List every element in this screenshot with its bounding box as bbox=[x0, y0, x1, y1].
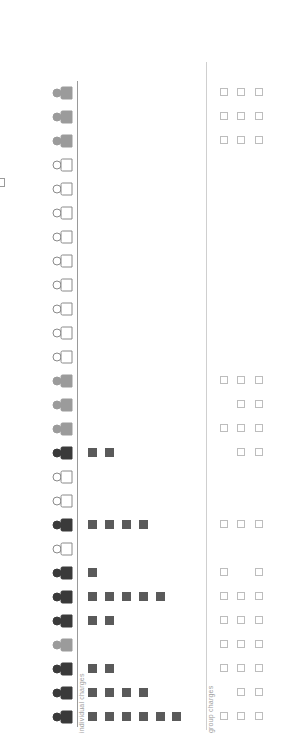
group-charge-square bbox=[255, 400, 263, 408]
person-row bbox=[0, 681, 284, 705]
person-row bbox=[0, 489, 284, 513]
person-dark-icon bbox=[52, 710, 74, 724]
person-row bbox=[0, 513, 284, 537]
person-dark-icon bbox=[52, 686, 74, 700]
individual-charge-square bbox=[139, 712, 148, 721]
group-charge-square bbox=[237, 376, 245, 384]
individual-charge-square bbox=[105, 448, 114, 457]
person-row bbox=[0, 225, 284, 249]
person-row bbox=[0, 633, 284, 657]
group-charge-square bbox=[237, 592, 245, 600]
group-charge-square bbox=[237, 424, 245, 432]
individual-charge-square bbox=[105, 664, 114, 673]
person-row bbox=[0, 561, 284, 585]
individual-charge-square bbox=[105, 688, 114, 697]
person-dark-icon bbox=[52, 446, 74, 460]
person-row bbox=[0, 441, 284, 465]
individual-charge-square bbox=[105, 616, 114, 625]
group-charge-square bbox=[255, 712, 263, 720]
group-charge-square bbox=[255, 448, 263, 456]
group-charge-square bbox=[220, 376, 228, 384]
person-row bbox=[0, 153, 284, 177]
person-row bbox=[0, 609, 284, 633]
person-row bbox=[0, 369, 284, 393]
person-row bbox=[0, 345, 284, 369]
individual-charge-square bbox=[122, 688, 131, 697]
person-dark-icon bbox=[52, 662, 74, 676]
group-charge-square bbox=[237, 88, 245, 96]
person-row bbox=[0, 105, 284, 129]
individual-charge-square bbox=[139, 592, 148, 601]
person-light-icon bbox=[52, 422, 74, 436]
individual-charge-square bbox=[172, 712, 181, 721]
group-charge-square bbox=[255, 424, 263, 432]
group-charge-square bbox=[255, 112, 263, 120]
individual-charge-square bbox=[139, 688, 148, 697]
person-light-icon bbox=[52, 374, 74, 388]
person-outline-icon bbox=[52, 542, 74, 556]
person-light-icon bbox=[52, 110, 74, 124]
individual-charge-square bbox=[156, 592, 165, 601]
group-charge-square bbox=[255, 376, 263, 384]
group-charge-square bbox=[237, 688, 245, 696]
person-outline-icon bbox=[52, 326, 74, 340]
group-charge-square bbox=[255, 616, 263, 624]
person-outline-icon bbox=[52, 230, 74, 244]
group-charge-square bbox=[255, 664, 263, 672]
person-outline-icon bbox=[52, 494, 74, 508]
person-row bbox=[0, 297, 284, 321]
group-charge-square bbox=[255, 136, 263, 144]
individual-charge-square bbox=[88, 616, 97, 625]
group-charge-square bbox=[237, 400, 245, 408]
person-light-icon bbox=[52, 638, 74, 652]
group-charge-square bbox=[255, 688, 263, 696]
person-row bbox=[0, 537, 284, 561]
group-charge-square bbox=[255, 640, 263, 648]
person-row bbox=[0, 321, 284, 345]
group-charge-square bbox=[237, 448, 245, 456]
person-outline-icon bbox=[52, 206, 74, 220]
group-charge-square bbox=[220, 112, 228, 120]
person-outline-icon bbox=[52, 350, 74, 364]
person-dark-icon bbox=[52, 590, 74, 604]
individual-charge-square bbox=[88, 664, 97, 673]
group-charge-square bbox=[255, 520, 263, 528]
individual-charge-square bbox=[88, 568, 97, 577]
person-outline-icon bbox=[52, 254, 74, 268]
person-row bbox=[0, 705, 284, 729]
group-charge-square bbox=[220, 520, 228, 528]
group-charge-square bbox=[220, 424, 228, 432]
individual-charge-square bbox=[122, 712, 131, 721]
person-dark-icon bbox=[52, 614, 74, 628]
person-outline-icon bbox=[52, 182, 74, 196]
person-outline-icon bbox=[52, 158, 74, 172]
person-row bbox=[0, 201, 284, 225]
person-dark-icon bbox=[52, 518, 74, 532]
group-charge-square bbox=[220, 568, 228, 576]
individual-charge-square bbox=[122, 520, 131, 529]
individual-charge-square bbox=[105, 712, 114, 721]
person-row bbox=[0, 393, 284, 417]
person-light-icon bbox=[52, 86, 74, 100]
group-charge-square bbox=[255, 568, 263, 576]
group-charge-square bbox=[255, 592, 263, 600]
individual-charge-square bbox=[139, 520, 148, 529]
person-row bbox=[0, 417, 284, 441]
person-outline-icon bbox=[52, 470, 74, 484]
group-charge-square bbox=[255, 88, 263, 96]
individual-charge-square bbox=[105, 592, 114, 601]
person-row bbox=[0, 249, 284, 273]
person-light-icon bbox=[52, 134, 74, 148]
person-row bbox=[0, 657, 284, 681]
group-charge-square bbox=[237, 664, 245, 672]
individual-charge-square bbox=[156, 712, 165, 721]
group-charge-square bbox=[220, 616, 228, 624]
person-row bbox=[0, 585, 284, 609]
group-charge-square bbox=[237, 712, 245, 720]
group-charge-square bbox=[220, 712, 228, 720]
person-outline-icon bbox=[52, 302, 74, 316]
group-charge-square bbox=[237, 112, 245, 120]
person-row bbox=[0, 177, 284, 201]
individual-charge-square bbox=[105, 520, 114, 529]
person-dark-icon bbox=[52, 566, 74, 580]
